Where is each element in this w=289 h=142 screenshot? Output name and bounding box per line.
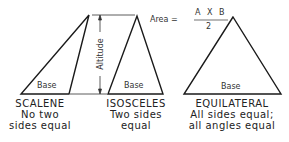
scalene-base-label: Base xyxy=(37,81,56,90)
equilateral-caption: EQUILATERAL All sides equal; all angles … xyxy=(176,98,288,131)
isosceles-title: ISOSCELES xyxy=(96,98,176,109)
isosceles-desc-1: Two sides xyxy=(96,109,176,120)
isosceles-base-label: Base xyxy=(124,81,143,90)
area-numerator: A X B xyxy=(195,8,227,17)
equilateral-title: EQUILATERAL xyxy=(176,98,288,109)
altitude-label: Altitude xyxy=(96,38,105,69)
area-prefix: Area = xyxy=(150,15,178,24)
equilateral-desc-2: all angles equal xyxy=(176,120,288,131)
scalene-desc-2: sides equal xyxy=(2,120,78,131)
scalene-caption: SCALENE No two sides equal xyxy=(2,98,78,131)
area-denominator: 2 xyxy=(206,22,211,31)
scalene-desc-1: No two xyxy=(2,109,78,120)
equilateral-base-label: Base xyxy=(221,82,240,91)
equilateral-desc-1: All sides equal; xyxy=(176,109,288,120)
scalene-title: SCALENE xyxy=(2,98,78,109)
isosceles-desc-2: equal xyxy=(96,120,176,131)
isosceles-caption: ISOSCELES Two sides equal xyxy=(96,98,176,131)
